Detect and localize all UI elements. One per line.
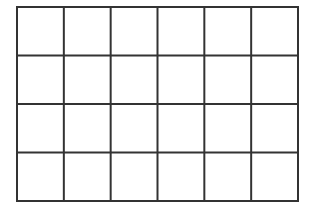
grid-diagram [0, 0, 311, 210]
grid-cell [64, 104, 111, 153]
grid-cell [158, 7, 205, 56]
grid-cell [17, 7, 64, 56]
grid-cell [204, 56, 251, 105]
grid-cell [64, 7, 111, 56]
grid-cell [111, 7, 158, 56]
grid-cell [111, 153, 158, 202]
grid-cell [251, 153, 298, 202]
grid-cell [158, 56, 205, 105]
grid-cell [158, 104, 205, 153]
grid-cell [64, 56, 111, 105]
grid-cell [17, 153, 64, 202]
grid-cell [204, 7, 251, 56]
grid-cell [64, 153, 111, 202]
grid-cell [251, 56, 298, 105]
grid-cell [204, 153, 251, 202]
grid-cell [251, 7, 298, 56]
grid-cell [17, 104, 64, 153]
grid-cell [111, 56, 158, 105]
grid-cell [158, 153, 205, 202]
grid-cell [111, 104, 158, 153]
grid-cell [17, 56, 64, 105]
grid-cell [204, 104, 251, 153]
grid-cell [251, 104, 298, 153]
